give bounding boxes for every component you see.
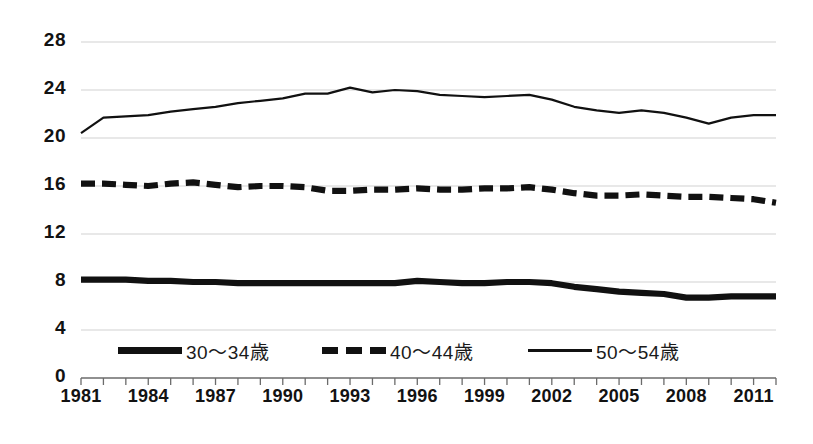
x-axis-tick-label: 2008	[651, 386, 721, 407]
x-axis-tick-label: 2005	[584, 386, 654, 407]
legend-swatch-dashed-icon	[322, 341, 386, 359]
legend-label-30-34: 30〜34歳	[186, 337, 269, 364]
x-axis-tick-label: 1993	[315, 386, 385, 407]
x-axis-tick-label: 1990	[248, 386, 318, 407]
line-chart-plot	[0, 0, 813, 444]
legend-swatch-thin-solid-icon	[528, 341, 592, 359]
x-axis-tick-label: 2002	[517, 386, 587, 407]
y-axis-tick-label: 8	[18, 269, 66, 291]
y-axis-tick-label: 4	[18, 317, 66, 339]
series-line-2	[81, 88, 776, 134]
legend-swatch-thick-solid-icon	[118, 341, 182, 359]
legend-label-50-54: 50〜54歳	[596, 337, 679, 364]
x-axis-tick-label: 1999	[450, 386, 520, 407]
x-axis-tick-label: 1987	[181, 386, 251, 407]
y-axis-tick-label: 28	[18, 29, 66, 51]
x-axis-tick-label: 1981	[46, 386, 116, 407]
legend-item-40-44[interactable]: 40〜44歳	[322, 336, 473, 364]
y-axis-tick-label: 0	[18, 365, 66, 387]
series-lines	[81, 88, 776, 298]
legend-item-50-54[interactable]: 50〜54歳	[528, 336, 679, 364]
y-axis-tick-label: 20	[18, 125, 66, 147]
x-axis-tick-label: 2011	[719, 386, 789, 407]
legend-label-40-44: 40〜44歳	[390, 337, 473, 364]
legend-item-30-34[interactable]: 30〜34歳	[118, 336, 269, 364]
x-axis-tick-label: 1984	[113, 386, 183, 407]
y-axis-tick-label: 16	[18, 173, 66, 195]
x-axis-tick-label: 1996	[382, 386, 452, 407]
y-axis-tick-label: 24	[18, 77, 66, 99]
chart-container: 0481216202428 19811984198719901993199619…	[0, 0, 813, 444]
x-axis-ticks	[81, 378, 776, 385]
y-axis-tick-label: 12	[18, 221, 66, 243]
